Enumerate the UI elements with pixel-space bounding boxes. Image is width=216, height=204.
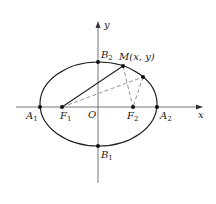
- y-axis-arrow-icon: [96, 21, 101, 28]
- label-f1: F1: [59, 110, 71, 123]
- label-f2: F2: [126, 110, 138, 123]
- label-m: M(x, y): [118, 51, 155, 62]
- point-a2: [155, 105, 159, 109]
- point-b1: [96, 144, 100, 148]
- label-a1: A1: [25, 110, 38, 123]
- label-b2: B2: [100, 49, 113, 62]
- point-p: [141, 75, 145, 79]
- origin-label: O: [88, 109, 96, 120]
- point-b2: [96, 60, 100, 64]
- x-axis-label: x: [198, 109, 204, 120]
- dashed-p-f2: [133, 77, 143, 107]
- point-m: [121, 64, 125, 68]
- label-b1: B1: [100, 149, 113, 162]
- label-a2: A2: [159, 110, 172, 123]
- y-axis-label: y: [103, 19, 110, 30]
- segment-f1-m: [62, 66, 123, 107]
- dashed-f1-p: [62, 77, 143, 107]
- point-a1: [38, 105, 42, 109]
- point-f2: [131, 105, 135, 109]
- point-f1: [60, 105, 64, 109]
- dashed-m-f2: [123, 66, 133, 107]
- ellipse: [40, 62, 157, 146]
- ellipse-diagram: y x O A1 F1 F2 A2 B2 B1 M(x, y): [0, 0, 216, 204]
